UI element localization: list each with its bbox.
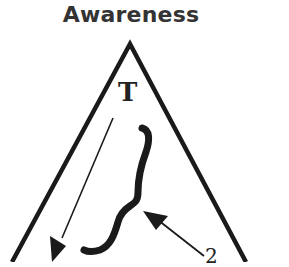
arrow-up-left: [143, 211, 204, 256]
vertex-label-t: T: [118, 78, 137, 106]
curly-brace-icon: [84, 128, 149, 252]
arrow-down-left: [50, 118, 113, 262]
partial-label-2: 2: [205, 244, 218, 267]
